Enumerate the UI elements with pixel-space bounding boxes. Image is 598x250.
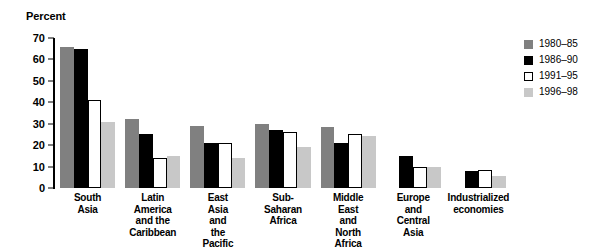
- y-tick-label: 10: [33, 161, 45, 172]
- category-label: East Asia and the Pacific: [202, 192, 233, 250]
- bar: [167, 156, 181, 188]
- y-tick-mark: [48, 102, 54, 103]
- category-label: Sub-Saharan Africa: [264, 192, 302, 227]
- bar-group-bars: [386, 38, 441, 188]
- bar: [362, 136, 376, 189]
- y-tick-label: 20: [33, 140, 45, 151]
- bar-group: Sub-Saharan Africa: [255, 38, 310, 188]
- category-label: Latin America and the Caribbean: [129, 192, 176, 238]
- category-label: South Asia: [74, 192, 102, 215]
- bar-group-bars: [125, 38, 180, 188]
- bar-group: Middle East and North Africa: [321, 38, 376, 188]
- bar: [190, 126, 204, 188]
- y-tick-label: 60: [33, 54, 45, 65]
- bar: [297, 147, 311, 188]
- bar: [74, 49, 88, 188]
- bar-group: Industrialized economies: [451, 38, 506, 188]
- y-tick-label: 40: [33, 97, 45, 108]
- bar: [478, 170, 492, 188]
- white-outlined-swatch: [524, 72, 533, 81]
- legend-label: 1980–85: [539, 39, 578, 49]
- plot-area: 010203040506070 South AsiaLatin America …: [54, 38, 510, 188]
- bar-group: Latin America and the Caribbean: [125, 38, 180, 188]
- y-tick-mark: [48, 188, 54, 189]
- bar-group-bars: [255, 38, 310, 188]
- bar: [465, 171, 479, 188]
- y-axis-title: Percent: [26, 10, 66, 22]
- legend-item: 1996–98: [524, 87, 578, 97]
- legend-item: 1991–95: [524, 71, 578, 81]
- bar: [492, 176, 506, 188]
- bar: [88, 100, 102, 188]
- bar-group: East Asia and the Pacific: [190, 38, 245, 188]
- bar-group-bars: [451, 38, 506, 188]
- y-tick-label: 0: [39, 183, 45, 194]
- bar-group-bars: [190, 38, 245, 188]
- category-label: Industrialized economies: [448, 192, 510, 215]
- y-tick-mark: [48, 123, 54, 124]
- bar: [153, 158, 167, 188]
- bar: [321, 127, 335, 188]
- y-tick-label: 30: [33, 118, 45, 129]
- bar: [60, 47, 74, 188]
- bar-group-bars: [321, 38, 376, 188]
- legend-item: 1986–90: [524, 55, 578, 65]
- category-label: Middle East and North Africa: [333, 192, 363, 250]
- y-tick-mark: [48, 166, 54, 167]
- bar: [269, 130, 283, 188]
- bar-group: South Asia: [60, 38, 115, 188]
- bar-group: Europe and Central Asia: [386, 38, 441, 188]
- bar: [101, 122, 115, 188]
- y-tick-mark: [48, 59, 54, 60]
- bar: [204, 143, 218, 188]
- y-tick-mark: [48, 145, 54, 146]
- legend-item: 1980–85: [524, 39, 578, 49]
- bar: [348, 134, 362, 188]
- bar: [334, 143, 348, 188]
- y-tick-mark: [48, 80, 54, 81]
- bar-group-bars: [60, 38, 115, 188]
- bar: [413, 167, 427, 188]
- legend: 1980–851986–901991–951996–98: [524, 39, 578, 97]
- bar: [399, 156, 413, 188]
- bar: [283, 132, 297, 188]
- bar: [232, 158, 246, 188]
- bar: [139, 134, 153, 188]
- black-swatch: [524, 56, 533, 65]
- y-tick-label: 70: [33, 33, 45, 44]
- category-label: Europe and Central Asia: [397, 192, 430, 238]
- light-gray-swatch: [524, 88, 533, 97]
- legend-label: 1996–98: [539, 87, 578, 97]
- y-tick-label: 50: [33, 75, 45, 86]
- bar: [255, 124, 269, 188]
- legend-label: 1986–90: [539, 55, 578, 65]
- bar: [427, 167, 441, 188]
- y-tick-mark: [48, 38, 54, 39]
- bar: [218, 143, 232, 188]
- legend-label: 1991–95: [539, 71, 578, 81]
- bar: [125, 119, 139, 188]
- dark-gray-swatch: [524, 40, 533, 49]
